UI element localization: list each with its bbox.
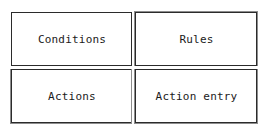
quadrant-grid: Conditions Rules Actions Action entry (10, 11, 259, 125)
cell-action-entry-label: Action entry (156, 90, 238, 103)
cell-actions-label: Actions (48, 90, 96, 103)
decision-table-diagram: Conditions Rules Actions Action entry (0, 0, 275, 135)
cell-rules[interactable]: Rules (134, 11, 259, 68)
cell-rules-label: Rules (179, 33, 213, 46)
cell-conditions[interactable]: Conditions (10, 11, 134, 68)
cell-conditions-label: Conditions (38, 33, 106, 46)
cell-action-entry[interactable]: Action entry (134, 68, 259, 125)
cell-actions[interactable]: Actions (10, 68, 134, 125)
